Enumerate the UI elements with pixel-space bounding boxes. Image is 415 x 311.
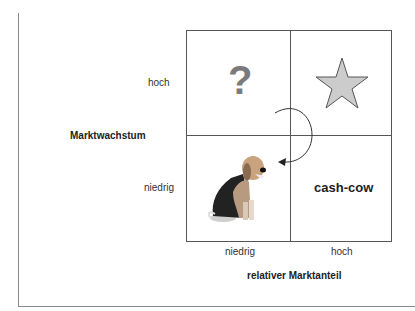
question-mark-icon: ? [228,58,252,103]
x-axis-low-label: niedrig [225,246,255,257]
y-axis-high-label: hoch [148,77,170,88]
star-icon [315,57,369,109]
x-axis-title: relativer Marktanteil [247,270,342,281]
frame-left-border [18,13,19,307]
frame-bottom-border [18,306,415,307]
y-axis-title: Marktwachstum [70,130,146,141]
curved-arrow-icon [270,105,320,170]
y-axis-low-label: niedrig [144,182,174,193]
cash-cow-label: cash-cow [314,180,373,195]
dog-icon [203,152,273,224]
x-axis-high-label: hoch [331,246,353,257]
